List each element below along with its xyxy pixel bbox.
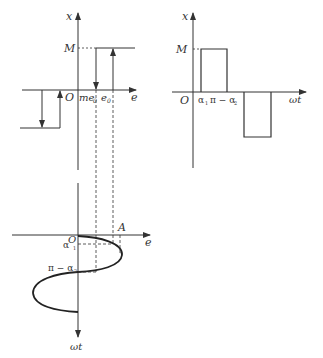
origin-label: O <box>68 234 76 245</box>
pi-minus-alpha2-label: π − α <box>210 95 235 105</box>
negative-pulse <box>244 92 271 137</box>
alpha1-sub: 1 <box>205 100 208 106</box>
alpha1-sub: 1 <box>73 245 76 251</box>
me0-sub: 0 <box>93 97 97 104</box>
pi-minus-alpha2-label: π − α <box>48 263 73 273</box>
origin-label: O <box>180 94 189 107</box>
time-axis-label: ωt <box>289 94 302 105</box>
m-label: M <box>175 43 188 56</box>
alpha1-label: α <box>198 95 204 105</box>
pi-minus-alpha2-sub: 2 <box>234 100 237 106</box>
x-axis-label: x <box>182 10 189 23</box>
e-axis-label: e <box>131 91 138 104</box>
input-sinusoid-plot: A e O α 1 π − α 2 ωt <box>12 183 152 352</box>
time-axis-label: ωt <box>70 341 83 352</box>
origin-label: O <box>65 91 74 104</box>
e0-sub: 0 <box>107 97 111 104</box>
pi-minus-alpha2-sub: 2 <box>74 268 77 274</box>
alpha1-label: α <box>63 240 69 250</box>
m-label: M <box>63 42 76 55</box>
output-waveform-plot: x M O α 1 π − α 2 ωt <box>172 10 306 168</box>
x-axis-label: x <box>66 10 73 23</box>
e-axis-label: e <box>145 236 152 249</box>
amplitude-label: A <box>117 221 126 234</box>
diagram-canvas: x M O me 0 e 0 e x M O α 1 π − α 2 ωt A … <box>0 0 323 358</box>
positive-pulse <box>201 49 227 92</box>
